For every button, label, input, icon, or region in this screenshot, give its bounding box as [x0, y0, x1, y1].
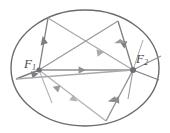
ray-topleft-to-f2 — [48, 18, 133, 70]
focus-label-f2-sub: 2 — [144, 58, 148, 67]
arrowhead-f1-to-topleft — [39, 35, 48, 45]
tangent-f2-lower-right — [133, 70, 159, 80]
focus-label-f1-main: F — [24, 56, 32, 71]
ellipse-reflection-figure: F1 F2 — [0, 0, 170, 133]
arrowhead-f1-to-f2-axis — [79, 67, 86, 74]
ray-f1-to-topright — [39, 21, 118, 70]
focus-dot-f1 — [36, 67, 41, 72]
focus-dot-f2 — [130, 67, 136, 73]
arrowhead-topright-down — [114, 39, 127, 43]
focus-label-f2: F2 — [136, 52, 148, 67]
focus-label-f2-main: F — [136, 51, 144, 66]
focus-label-f1-sub: 1 — [32, 63, 36, 72]
focus-label-f1: F1 — [24, 57, 36, 72]
